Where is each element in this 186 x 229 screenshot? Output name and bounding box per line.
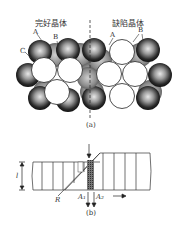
label-a-right: A [110,32,115,39]
caption-a: (a) [86,122,96,129]
label-c-left: C [20,48,25,55]
displaced-atom [110,40,135,65]
label-b-right: B [138,27,143,34]
label-a-left: A [33,29,38,36]
dislocation-core [87,160,94,190]
r-label: R [55,197,60,204]
a1-label: A₁ [78,194,86,201]
perfect-crystal-title: 完好晶体 [35,20,67,28]
label-b-left: B [53,34,58,41]
small-marker [78,162,83,172]
crystal-packing-diagram [16,20,172,118]
arrows [19,144,126,207]
figure-canvas [0,0,186,229]
caption-b: (b) [86,210,96,217]
a2-label: A₂ [96,194,104,201]
thickness-label: l [16,173,18,180]
